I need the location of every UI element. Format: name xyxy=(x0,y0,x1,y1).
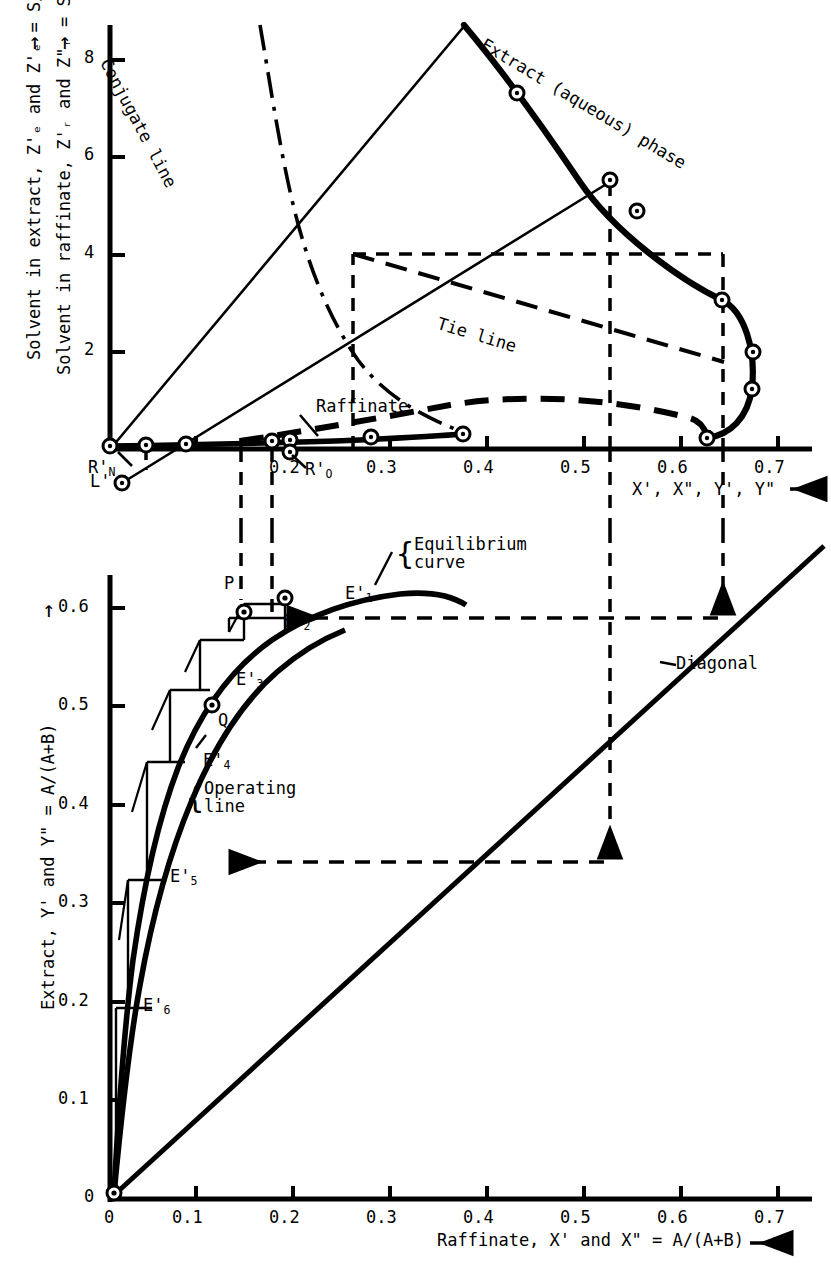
leader-raffinate xyxy=(300,415,318,436)
bottom-ytick-0.1: 0.1 xyxy=(58,1090,89,1108)
top-xtick-0.6: 0.6 xyxy=(657,459,688,477)
stage-label-E3-sub: 3 xyxy=(256,677,263,691)
operating-line-l2: line xyxy=(204,798,296,816)
bottom-xtick-0.4: 0.4 xyxy=(463,1209,494,1227)
bottom-ytick-0.2: 0.2 xyxy=(58,992,89,1010)
bottom-chart-axes xyxy=(108,575,812,1243)
top-ytick-4: 4 xyxy=(84,244,94,262)
point-label-RO-sub: O xyxy=(325,467,332,481)
bottom-xaxis-label: Raffinate, X' and X" = A/(A+B) xyxy=(437,1232,744,1250)
top-xtick-0.5: 0.5 xyxy=(560,459,591,477)
bottom-xtick-0: 0 xyxy=(104,1209,114,1227)
series-conjugate-line xyxy=(260,25,468,434)
leader-equilibrium-curve xyxy=(375,552,392,585)
point-label-L: L' xyxy=(90,473,110,491)
series-raffinate-dashed xyxy=(240,399,707,441)
top-ytick-2: 2 xyxy=(84,341,94,359)
series-equilibrium-curve xyxy=(114,593,466,1194)
bottom-ytick-0: 0 xyxy=(84,1188,94,1206)
bottom-ytick-0.6: 0.6 xyxy=(58,598,89,616)
bottom-xtick-0.5: 0.5 xyxy=(560,1209,591,1227)
leader-diagonal xyxy=(660,662,676,665)
ray-through-RN xyxy=(112,24,466,447)
top-xtick-0.7: 0.7 xyxy=(754,459,785,477)
stage-label-E6: E'6 xyxy=(143,997,170,1016)
series-diagonal xyxy=(113,546,824,1196)
stage-label-E1: E'1 xyxy=(345,585,372,604)
equilibrium-curve-l2: curve xyxy=(414,554,527,572)
stage-label-E1-sub: 1 xyxy=(365,591,372,605)
figure-canvas: Solvent in extract, Z'ₑ and Z'ₑ = S/(A+B… xyxy=(0,0,831,1285)
stage-label-E5: E'5 xyxy=(170,868,197,887)
bottom-xtick-0.7: 0.7 xyxy=(754,1209,785,1227)
stage-label-P: P xyxy=(224,575,234,593)
top-ytick-6: 6 xyxy=(84,146,94,164)
label-equilibrium-curve: { Equilibrium curve xyxy=(396,536,527,572)
bottom-yaxis-arrow: ↑ xyxy=(42,598,55,621)
stage-label-E5-sub: 5 xyxy=(190,874,197,888)
bottom-xtick-0.3: 0.3 xyxy=(366,1209,397,1227)
stage-label-E3: E'3 xyxy=(236,671,263,690)
bottom-ytick-0.3: 0.3 xyxy=(58,893,89,911)
bottom-ytick-0.4: 0.4 xyxy=(58,795,89,813)
top-yaxis-arrow-1: ↑ xyxy=(28,30,41,53)
top-xtick-0.4: 0.4 xyxy=(463,459,494,477)
top-yaxis-label-line1: Solvent in extract, Z'ₑ and Z'ₑ = S/(A+B… xyxy=(26,0,44,360)
bottom-ytick-0.5: 0.5 xyxy=(58,696,89,714)
stage-label-E2-sub: 2 xyxy=(303,619,310,633)
figure-svg xyxy=(0,0,831,1285)
bottom-chart-projections xyxy=(232,530,723,862)
top-yaxis-label-line2: Solvent in raffinate, Z'ᵣ and Z"ᵣ = S/(A… xyxy=(56,0,74,375)
point-label-RO: R'O xyxy=(305,461,332,480)
top-yaxis-arrow-2: ↑ xyxy=(58,30,71,53)
top-ytick-8: 8 xyxy=(84,49,94,67)
bottom-yaxis-label: Extract, Y' and Y" = A/(A+B) xyxy=(40,723,58,1010)
label-raffinate: Raffinate xyxy=(316,398,408,416)
stage-label-E2: E'2 xyxy=(283,613,310,632)
stage-label-Q: Q xyxy=(218,712,228,730)
stage-label-E4-sub: 4 xyxy=(223,758,230,772)
top-chart-construction xyxy=(241,180,723,449)
stage-label-E6-sub: 6 xyxy=(163,1003,170,1017)
top-chart-axes xyxy=(108,25,824,489)
leader-RN xyxy=(118,452,132,466)
label-diagonal: Diagonal xyxy=(676,655,758,673)
series-operating-line xyxy=(114,630,345,1194)
top-xtick-0.2: 0.2 xyxy=(269,459,300,477)
stage-label-E4: E'4 xyxy=(203,752,230,771)
top-xtick-0.3: 0.3 xyxy=(366,459,397,477)
leader-operating-line xyxy=(196,735,206,748)
bottom-xtick-0.6: 0.6 xyxy=(657,1209,688,1227)
label-operating-line: { Operating line xyxy=(186,780,296,816)
bottom-xtick-0.2: 0.2 xyxy=(269,1209,300,1227)
bottom-xtick-0.1: 0.1 xyxy=(172,1209,203,1227)
top-xaxis-label: X', X", Y', Y" xyxy=(632,481,775,499)
